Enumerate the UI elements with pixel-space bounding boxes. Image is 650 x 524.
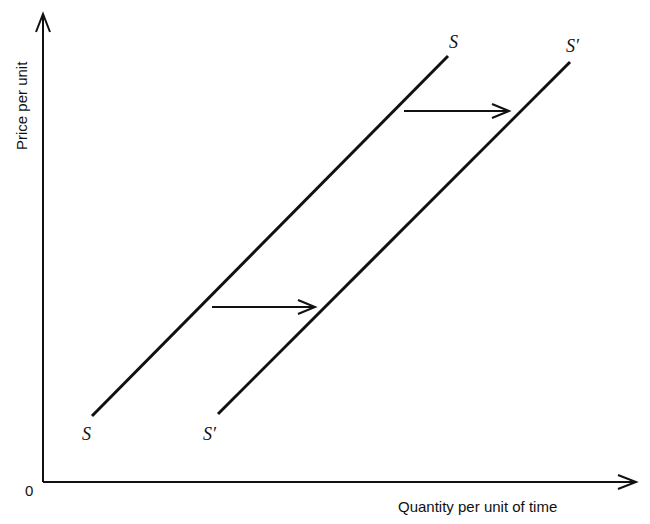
x-axis-label: Quantity per unit of time xyxy=(398,498,557,515)
supply-shift-diagram: Price per unit Quantity per unit of time… xyxy=(0,0,650,524)
supply-curve-s-label-bottom: S xyxy=(82,424,91,444)
supply-curve-s-prime-label-top: S′ xyxy=(566,36,580,56)
supply-curve-s-prime-label-bottom: S′ xyxy=(203,424,217,444)
supply-curve-s-label-top: S xyxy=(449,32,458,52)
y-axis-label: Price per unit xyxy=(13,61,30,150)
origin-label: 0 xyxy=(25,482,33,499)
supply-curve-s-prime xyxy=(218,62,570,414)
